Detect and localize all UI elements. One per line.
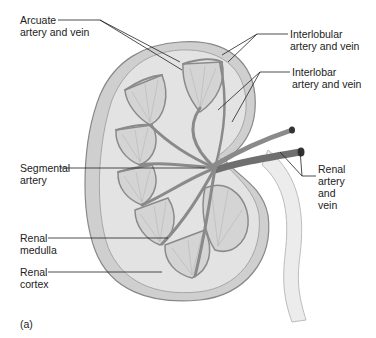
label-line: Renal: [20, 232, 57, 244]
label-interlobar-artery-and-vein: Interlobar artery and vein: [292, 66, 361, 90]
label-line: Interlobar: [292, 66, 361, 78]
label-line: medulla: [20, 244, 57, 256]
label-renal-artery-and-vein: Renal artery and vein: [318, 163, 345, 211]
label-line: Renal: [318, 163, 345, 175]
kidney-diagram: Arcuate artery and vein Interlobular art…: [0, 0, 376, 338]
label-line: artery: [20, 174, 70, 186]
label-line: Arcuate: [20, 14, 89, 26]
renal-vein-opening: [298, 148, 305, 157]
label-line: vein: [318, 199, 345, 211]
panel-label: (a): [20, 318, 33, 330]
renal-artery-opening: [289, 127, 295, 134]
label-line: artery and vein: [292, 78, 361, 90]
label-line: and: [318, 187, 345, 199]
label-line: cortex: [20, 278, 49, 290]
label-renal-cortex: Renal cortex: [20, 266, 49, 290]
label-line: Renal: [20, 266, 49, 278]
label-line: Interlobular: [290, 28, 359, 40]
label-line: artery and vein: [290, 40, 359, 52]
label-line: artery: [318, 175, 345, 187]
label-segmental-artery: Segmental artery: [20, 162, 70, 186]
label-interlobular-artery-and-vein: Interlobular artery and vein: [290, 28, 359, 52]
label-line: artery and vein: [20, 26, 89, 38]
label-arcuate-artery-and-vein: Arcuate artery and vein: [20, 14, 89, 38]
label-renal-medulla: Renal medulla: [20, 232, 57, 256]
label-line: Segmental: [20, 162, 70, 174]
